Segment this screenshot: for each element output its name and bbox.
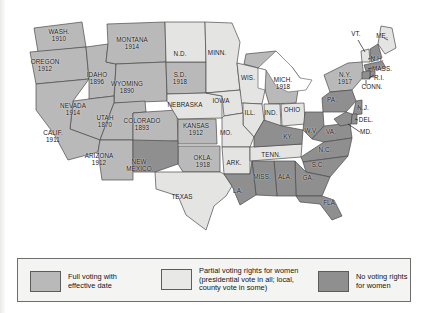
legend-none-line-2: for women [356, 282, 407, 291]
state-name-text: KY. [283, 134, 293, 141]
state-label-north-carolina: N.C. [319, 147, 332, 154]
state-name-text: N.J. [357, 105, 369, 112]
state-label-delaware: DEL. [359, 117, 373, 124]
state-label-south-dakota: S.D.1918 [173, 72, 187, 85]
state-label-wisconsin: WIS. [241, 75, 255, 82]
state-shape-connecticut[interactable] [362, 71, 370, 79]
state-name-text: DEL. [359, 117, 373, 124]
state-name-text: VT. [351, 31, 360, 38]
state-name-text: IOWA [213, 98, 230, 105]
state-label-virginia: VA. [326, 129, 336, 136]
legend-item-no-voting[interactable]: No voting rights for women [318, 271, 407, 292]
full-voting-swatch [30, 271, 61, 292]
state-name-text: PA. [327, 97, 337, 104]
state-name-text: OHIO [284, 107, 301, 114]
state-name-text: MASS. [372, 66, 392, 73]
legend-label-partial-voting: Partial voting rights for women (preside… [199, 267, 298, 293]
state-year-text: 1893 [124, 125, 161, 132]
state-year-text: 1911 [43, 137, 63, 144]
state-label-oregon: OREGON1912 [31, 59, 60, 72]
state-label-maryland: MD. [360, 129, 372, 136]
state-year-text: 1910 [49, 36, 70, 43]
state-label-louisiana: LA. [233, 188, 243, 195]
state-shape-maryland[interactable] [334, 112, 352, 126]
state-label-tennessee: TENN. [261, 152, 280, 159]
state-label-vermont: VT. [351, 31, 360, 38]
state-name-text: ILL. [245, 110, 256, 117]
state-name-text: ME. [376, 33, 388, 40]
state-year-text: 1918 [173, 79, 187, 86]
state-name-text: N.C. [319, 147, 332, 154]
legend-item-partial-voting[interactable]: Partial voting rights for women (preside… [161, 267, 298, 293]
state-name-text: R.I. [374, 75, 384, 82]
state-label-texas: TEXAS [171, 194, 192, 201]
state-label-connecticut: CONN. [362, 84, 383, 91]
state-year-text: 1918 [193, 162, 212, 169]
state-name-text: ARK. [226, 160, 241, 167]
state-label-illinois: ILL. [245, 110, 256, 117]
legend-full-line-2: effective date [68, 282, 117, 291]
state-year-text: 1890 [111, 88, 143, 95]
state-shape-vermont[interactable] [361, 49, 370, 62]
state-name-text: MD. [360, 129, 372, 136]
state-label-mississippi: MISS. [253, 174, 271, 181]
state-label-florida: FLA. [323, 200, 337, 207]
state-name-text: N.H. [371, 56, 384, 63]
state-year-text: 1918 [274, 84, 292, 91]
state-label-massachusetts: MASS. [372, 66, 392, 73]
state-name-text: CONN. [362, 84, 383, 91]
state-name-text: N.D. [174, 51, 187, 58]
state-label-kansas: KANSAS1912 [183, 123, 209, 136]
state-label-nevada: NEVADA1914 [60, 103, 86, 116]
state-label-ohio: OHIO [284, 107, 301, 114]
state-label-new-mexico: NEWMEXICO [126, 159, 151, 172]
state-name-text: MO. [220, 130, 232, 137]
state-label-west-virginia: W.V. [304, 128, 317, 135]
lake-michigan-shape [258, 68, 266, 90]
state-label-minnesota: MINN. [208, 50, 226, 57]
state-year-text: 1917 [338, 79, 352, 86]
state-label-nebraska: NEBRASKA [167, 102, 202, 109]
state-label-washington: WASH.1910 [49, 29, 70, 42]
state-name-text: FLA. [323, 200, 337, 207]
legend-label-full-voting: Full voting with effective date [68, 273, 117, 290]
no-voting-swatch [318, 271, 349, 292]
state-name-text: TEXAS [171, 194, 192, 201]
state-label-alabama: ALA. [278, 174, 292, 181]
state-year-text: 1896 [87, 79, 107, 86]
state-label-iowa: IOWA [213, 98, 230, 105]
state-year-text: 1870 [96, 122, 113, 129]
state-label-oklahoma: OKLA.1918 [193, 155, 212, 168]
map-legend: Full voting with effective date Partial … [17, 258, 411, 302]
state-label-north-dakota: N.D. [174, 51, 187, 58]
state-name-text: MINN. [208, 50, 226, 57]
state-year-text: 1912 [183, 130, 209, 137]
state-name-text: VA. [326, 129, 336, 136]
state-label-new-hampshire: N.H. [371, 56, 384, 63]
state-label-wyoming: WYOMING1890 [111, 81, 143, 94]
state-year-text: 1912 [31, 66, 60, 73]
state-name-text: ALA. [278, 174, 292, 181]
state-shape-texas[interactable] [155, 172, 232, 230]
state-label-california: CALIF.1911 [43, 130, 63, 143]
state-label-maine: ME. [376, 33, 388, 40]
state-name-text: IND. [265, 110, 278, 117]
state-label-pennsylvania: PA. [327, 97, 337, 104]
state-label-colorado: COLORADO1893 [124, 118, 161, 131]
state-shape-maine[interactable] [378, 26, 396, 54]
state-name-text: W.V. [304, 128, 317, 135]
state-label-georgia: GA. [302, 175, 313, 182]
state-label-kentucky: KY. [283, 134, 293, 141]
state-label-indiana: IND. [265, 110, 278, 117]
legend-item-full-voting[interactable]: Full voting with effective date [30, 271, 117, 292]
state-name-text: GA. [302, 175, 313, 182]
state-year-text: 1914 [116, 44, 148, 51]
state-label-new-jersey: N.J. [357, 105, 369, 112]
state-shape-minnesota[interactable] [205, 22, 240, 93]
state-name-text: LA. [233, 188, 243, 195]
state-label-idaho: IDAHO1896 [87, 72, 107, 85]
legend-partial-line-3: county vote in some) [199, 284, 298, 293]
state-label-montana: MONTANA1914 [116, 37, 148, 50]
state-label-michigan: MICH.1918 [274, 77, 292, 90]
state-label-missouri: MO. [220, 130, 232, 137]
